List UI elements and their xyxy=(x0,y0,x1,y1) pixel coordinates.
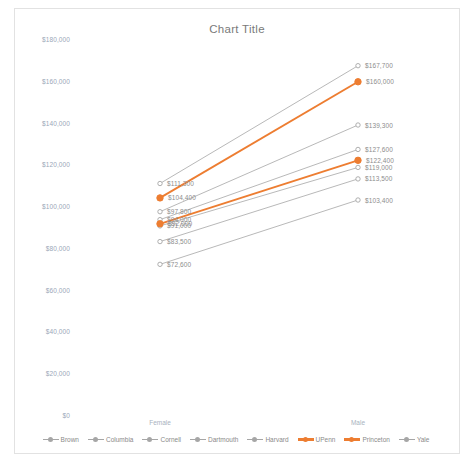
y-axis-tick-label: $140,000 xyxy=(18,120,70,127)
data-point-label: $167,700 xyxy=(365,62,393,69)
y-axis-tick-label: $120,000 xyxy=(18,161,70,168)
legend-label: UPenn xyxy=(316,436,336,443)
legend-item-dartmouth[interactable]: Dartmouth xyxy=(190,436,238,443)
data-point-label: $92,000 xyxy=(168,220,192,227)
chart-legend: BrownColumbiaCornellDartmouthHarvardUPen… xyxy=(0,436,472,443)
legend-swatch-icon xyxy=(399,439,415,441)
legend-swatch-icon xyxy=(190,439,206,441)
data-point-label: $97,800 xyxy=(167,208,191,215)
chart-frame: Chart Title xyxy=(14,8,460,454)
legend-item-princeton[interactable]: Princeton xyxy=(344,436,389,443)
data-point-label: $122,400 xyxy=(366,157,394,164)
legend-item-yale[interactable]: Yale xyxy=(399,436,430,443)
y-axis-tick-label: $20,000 xyxy=(18,370,70,377)
y-axis-tick-label: $100,000 xyxy=(18,203,70,210)
legend-item-columbia[interactable]: Columbia xyxy=(88,436,133,443)
chart-title: Chart Title xyxy=(15,23,459,35)
data-point-label: $104,400 xyxy=(168,194,196,201)
data-point-label: $139,300 xyxy=(365,122,393,129)
data-point-label: $113,500 xyxy=(365,175,392,182)
legend-swatch-icon xyxy=(88,439,104,441)
legend-item-cornell[interactable]: Cornell xyxy=(142,436,181,443)
data-point-label: $72,600 xyxy=(167,261,191,268)
y-axis-tick-label: $40,000 xyxy=(18,328,70,335)
legend-swatch-icon xyxy=(298,438,314,440)
data-point-label: $127,600 xyxy=(365,146,393,153)
legend-label: Dartmouth xyxy=(208,436,238,443)
y-axis-tick-label: $180,000 xyxy=(18,36,70,43)
data-point-label: $103,400 xyxy=(365,197,393,204)
data-point-label: $160,000 xyxy=(366,78,394,85)
legend-label: Cornell xyxy=(160,436,181,443)
legend-label: Yale xyxy=(417,436,430,443)
legend-item-brown[interactable]: Brown xyxy=(43,436,79,443)
x-axis-tick-label: Female xyxy=(130,419,190,426)
legend-swatch-icon xyxy=(142,439,158,441)
data-point-label: $83,500 xyxy=(167,238,191,245)
x-axis-tick-label: Male xyxy=(328,419,388,426)
legend-label: Brown xyxy=(61,436,79,443)
data-point-label: $111,300 xyxy=(167,180,194,187)
legend-label: Columbia xyxy=(106,436,133,443)
legend-label: Princeton xyxy=(362,436,389,443)
legend-item-upenn[interactable]: UPenn xyxy=(298,436,336,443)
y-axis-tick-label: $60,000 xyxy=(18,287,70,294)
legend-label: Harvard xyxy=(265,436,288,443)
legend-item-harvard[interactable]: Harvard xyxy=(247,436,288,443)
legend-swatch-icon xyxy=(247,439,263,441)
data-point-label: $119,000 xyxy=(365,164,392,171)
y-axis-tick-label: $160,000 xyxy=(18,78,70,85)
legend-swatch-icon xyxy=(344,438,360,440)
y-axis-tick-label: $0 xyxy=(18,412,70,419)
legend-swatch-icon xyxy=(43,439,59,441)
y-axis-tick-label: $80,000 xyxy=(18,245,70,252)
